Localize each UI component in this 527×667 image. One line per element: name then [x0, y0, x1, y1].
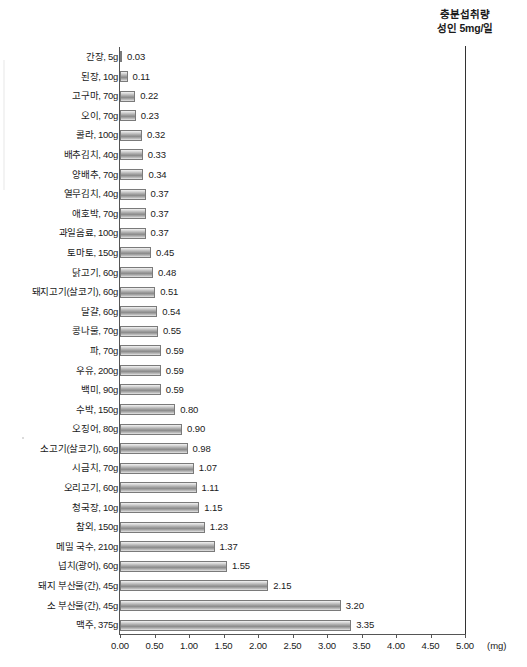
bar-category-label: 맥주, 375g: [76, 615, 118, 635]
bar-category-label: 오이, 70g: [81, 106, 118, 126]
bar: [120, 482, 197, 493]
bar-value-label: 0.54: [162, 302, 180, 322]
bar: [120, 443, 188, 454]
x-axis-tick-mark: [155, 634, 156, 638]
bar: [120, 228, 146, 239]
bar-row: 돼지고기(살코기), 60g0.51: [0, 282, 527, 302]
bar: [120, 541, 215, 552]
bar: [120, 267, 153, 278]
bar-value-label: 1.07: [199, 458, 217, 478]
bar-category-label: 애호박, 70g: [72, 204, 118, 224]
bar-value-label: 1.37: [220, 537, 238, 557]
bar-category-label: 파, 70g: [90, 341, 118, 361]
bar-value-label: 0.59: [166, 341, 184, 361]
bar-value-label: 0.59: [166, 361, 184, 381]
bar: [120, 424, 182, 435]
bar-category-label: 메밀 국수, 210g: [56, 537, 118, 557]
bar-category-label: 백미, 90g: [81, 380, 118, 400]
bar-row: 달걀, 60g0.54: [0, 302, 527, 322]
bar-category-label: 청국장, 10g: [72, 498, 118, 518]
x-axis-tick-label: 4.50: [421, 640, 439, 651]
bar-row: 배추김치, 40g0.33: [0, 145, 527, 165]
x-axis-tick-mark: [258, 634, 259, 638]
bar-value-label: 0.51: [160, 282, 178, 302]
x-axis-tick-label: 2.50: [283, 640, 301, 651]
bar-row: 고구마, 70g0.22: [0, 86, 527, 106]
bar-row: 콩나물, 70g0.55: [0, 321, 527, 341]
bar: [120, 384, 161, 395]
bar-row: 열무김치, 40g0.37: [0, 184, 527, 204]
bar-category-label: 콜라, 100g: [76, 125, 118, 145]
bar-rows-container: 간장, 5g0.03된장, 10g0.11고구마, 70g0.22오이, 70g…: [0, 47, 527, 635]
bar-category-label: 돼지고기(살코기), 60g: [32, 282, 118, 302]
bar-row: 시금치, 70g1.07: [0, 458, 527, 478]
bar-value-label: 1.15: [204, 498, 222, 518]
bar-category-label: 달걀, 60g: [81, 302, 118, 322]
bar-value-label: 0.45: [156, 243, 174, 263]
bar-value-label: 2.15: [273, 576, 291, 596]
x-axis-tick-label: 4.00: [387, 640, 405, 651]
bar-row: 오징어, 80g0.90: [0, 419, 527, 439]
bar-category-label: 돼지 부산물(간), 45g: [38, 576, 118, 596]
bar-category-label: 양배추, 70g: [72, 165, 118, 185]
bar-category-label: 닭고기, 60g: [72, 263, 118, 283]
bar-value-label: 0.37: [151, 204, 169, 224]
bar-value-label: 0.90: [187, 419, 205, 439]
x-axis-tick-mark: [120, 634, 121, 638]
bar: [120, 149, 143, 160]
x-axis-tick-label: 3.50: [352, 640, 370, 651]
bar: [120, 561, 227, 572]
bar-row: 우유, 200g0.59: [0, 361, 527, 381]
bar-value-label: 3.20: [346, 596, 364, 616]
x-axis-tick-mark: [224, 634, 225, 638]
bar-row: 간장, 5g0.03: [0, 47, 527, 67]
bar: [120, 404, 175, 415]
bar-row: 메밀 국수, 210g1.37: [0, 537, 527, 557]
x-axis-tick-mark: [189, 634, 190, 638]
bar: [120, 620, 351, 631]
bar-value-label: 0.37: [151, 223, 169, 243]
bar-value-label: 0.34: [148, 165, 166, 185]
x-axis-tick-label: 5.00: [456, 640, 474, 651]
bar-value-label: 3.35: [356, 615, 374, 635]
bar-value-label: 0.03: [127, 47, 145, 67]
bar-row: 넙치(광어), 60g1.55: [0, 556, 527, 576]
bar: [120, 208, 146, 219]
bar-category-label: 시금치, 70g: [72, 458, 118, 478]
bar-category-label: 배추김치, 40g: [64, 145, 118, 165]
bar: [120, 326, 158, 337]
bar: [120, 463, 194, 474]
bar-value-label: 1.23: [210, 517, 228, 537]
bar-value-label: 0.59: [166, 380, 184, 400]
bar-value-label: 0.11: [133, 67, 150, 87]
x-axis-tick-mark: [362, 634, 363, 638]
bar-value-label: 0.32: [147, 125, 165, 145]
x-axis-tick-label: 3.00: [318, 640, 336, 651]
bar-value-label: 0.23: [141, 106, 159, 126]
bar-category-label: 오리고기, 60g: [64, 478, 118, 498]
bar-row: 과일음료, 100g0.37: [0, 223, 527, 243]
bar: [120, 345, 161, 356]
bar: [120, 522, 205, 533]
bar-row: 애호박, 70g0.37: [0, 204, 527, 224]
bar-value-label: 0.33: [148, 145, 166, 165]
bar-category-label: 참외, 150g: [76, 517, 118, 537]
bar-row: 닭고기, 60g0.48: [0, 263, 527, 283]
bar: [120, 580, 268, 591]
bar-value-label: 1.11: [202, 478, 219, 498]
bar: [120, 169, 143, 180]
bar: [120, 51, 122, 62]
bar-value-label: 0.37: [151, 184, 169, 204]
bar-category-label: 토마토, 150g: [67, 243, 118, 263]
bar-row: 오리고기, 60g1.11: [0, 478, 527, 498]
bar-category-label: 소 부산물(간), 45g: [47, 596, 118, 616]
bar-value-label: 0.80: [180, 400, 198, 420]
bar: [120, 365, 161, 376]
bar-category-label: 열무김치, 40g: [64, 184, 118, 204]
bar-row: 백미, 90g0.59: [0, 380, 527, 400]
bar-value-label: 0.48: [158, 263, 176, 283]
bar-row: 참외, 150g1.23: [0, 517, 527, 537]
bar-category-label: 우유, 200g: [76, 361, 118, 381]
x-axis-tick-label: 0.50: [145, 640, 163, 651]
bar: [120, 71, 128, 82]
